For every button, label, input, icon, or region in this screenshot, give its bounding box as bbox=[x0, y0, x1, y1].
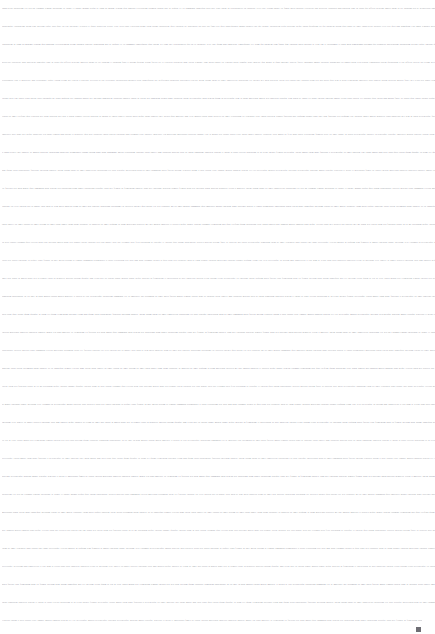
document-page[interactable]: consectetur adipiscing elit sed do eiusm… bbox=[0, 0, 435, 630]
document-viewport[interactable]: consectetur adipiscing elit sed do eiusm… bbox=[0, 0, 435, 634]
document-text-line: vehicula ipsum a arcu cursus vitae congu… bbox=[0, 611, 422, 632]
